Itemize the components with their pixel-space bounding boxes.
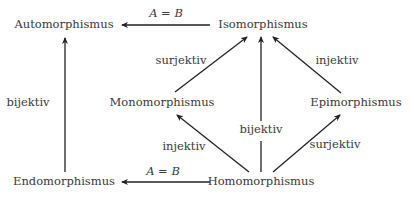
node-homomorphismus: Homomorphismus bbox=[208, 176, 315, 188]
label-homo-to-mono: injektiv bbox=[162, 141, 205, 153]
label-epi-to-iso: injektiv bbox=[315, 55, 358, 67]
node-isomorphismus: Isomorphismus bbox=[218, 19, 307, 31]
label-homo-to-epi: surjektiv bbox=[310, 139, 361, 151]
morphism-diagram: Automorphismus Isomorphismus Monomorphis… bbox=[0, 0, 412, 201]
label-mono-to-iso: surjektiv bbox=[156, 55, 207, 67]
node-automorphismus: Automorphismus bbox=[14, 19, 113, 31]
label-endo-to-auto: bijektiv bbox=[6, 97, 49, 109]
node-endomorphismus: Endomorphismus bbox=[13, 176, 115, 188]
label-homo-to-endo: A = B bbox=[146, 166, 180, 178]
label-homo-to-iso: bijektiv bbox=[239, 124, 282, 136]
label-iso-to-auto: A = B bbox=[149, 8, 183, 20]
node-epimorphismus: Epimorphismus bbox=[310, 97, 401, 109]
node-monomorphismus: Monomorphismus bbox=[110, 97, 215, 109]
